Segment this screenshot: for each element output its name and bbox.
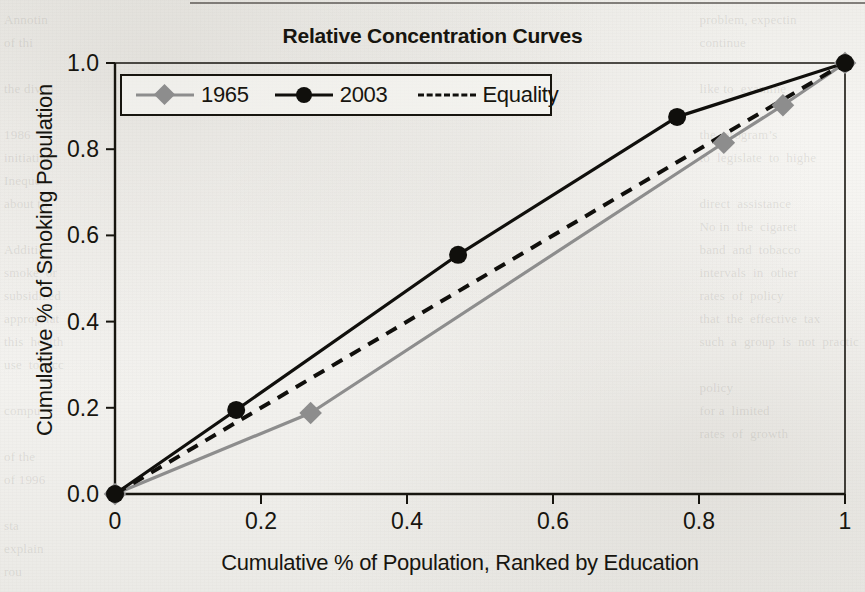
data-point-marker-2003: [668, 108, 686, 126]
data-series: [104, 52, 857, 506]
legend-item-2003[interactable]: 2003: [275, 82, 388, 108]
legend-line-marker-2003: [275, 86, 333, 104]
data-point-marker-2003: [836, 54, 854, 72]
legend-dashed-line-equality: [418, 86, 476, 104]
legend-label-1965: 1965: [201, 82, 249, 108]
series-line-equality: [115, 63, 845, 494]
data-point-marker-2003: [227, 401, 245, 419]
data-point-marker-1965: [299, 402, 322, 425]
data-point-marker-2003: [449, 246, 467, 264]
data-point-marker-2003: [106, 485, 124, 503]
legend-line-marker-1965: [136, 86, 194, 104]
diamond-marker-icon: [154, 84, 175, 105]
legend-label-equality: Equality: [483, 82, 559, 108]
legend-label-2003: 2003: [340, 82, 388, 108]
data-point-marker-1965: [713, 131, 736, 154]
data-point-marker-1965: [772, 94, 795, 117]
legend-item-equality[interactable]: Equality: [418, 82, 559, 108]
relative-concentration-curves-chart: Relative Concentration Curves Cumulative…: [0, 0, 865, 592]
circle-marker-icon: [296, 87, 312, 103]
chart-legend: 1965 2003 Equality: [120, 74, 552, 116]
legend-item-1965[interactable]: 1965: [136, 82, 249, 108]
